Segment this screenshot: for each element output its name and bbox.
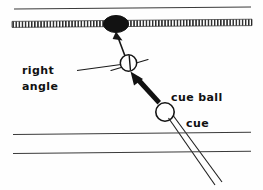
top-rail-line	[14, 7, 251, 9]
cushion-rail-hatched	[12, 19, 252, 27]
label-right-angle-line1: right	[22, 64, 54, 77]
object-ball-path-arrow	[113, 32, 125, 57]
cue-ball-path-arrow	[131, 72, 162, 105]
bottom-rail-line-upper	[13, 132, 251, 134]
object-ball	[104, 16, 129, 33]
cue-ball	[156, 103, 174, 121]
ghost-ball-contact-point	[120, 55, 136, 71]
bottom-rail-line-lower	[13, 151, 251, 153]
billiards-shot-diagram: right angle cue ball cue	[0, 0, 263, 190]
label-cue: cue	[186, 117, 209, 130]
label-cue-ball: cue ball	[171, 91, 223, 104]
diagram-canvas: right angle cue ball cue	[0, 0, 263, 190]
label-right-angle-line2: angle	[22, 80, 58, 93]
